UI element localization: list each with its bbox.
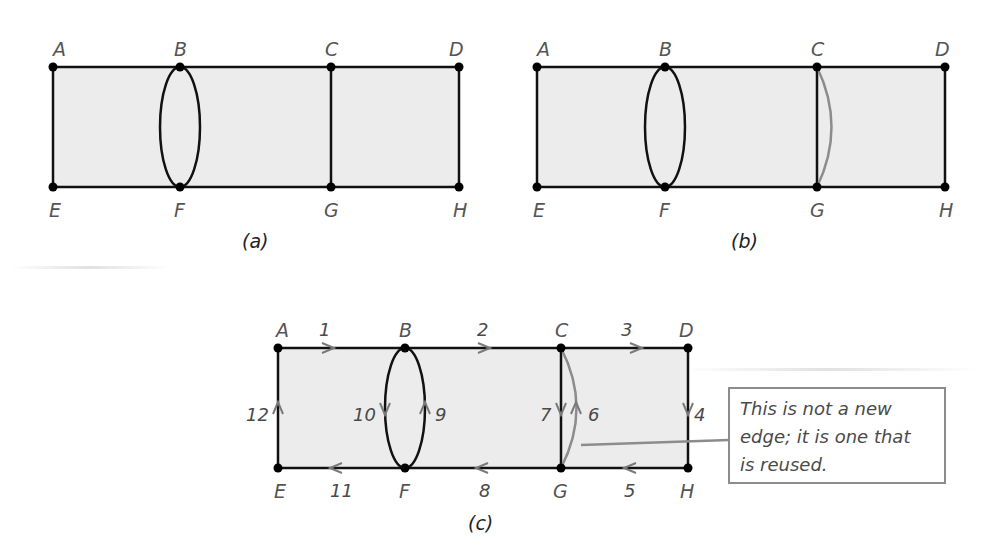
label-f: F	[174, 199, 186, 221]
label-b: B	[659, 38, 672, 60]
reused-edge-callout: This is not a new edge; it is one that i…	[728, 387, 946, 484]
label-a: A	[51, 38, 66, 60]
edge-label-8: 8	[479, 480, 490, 501]
label-c: C	[811, 38, 825, 60]
node-c	[327, 63, 336, 72]
label-e: E	[49, 199, 61, 221]
callout-line-1: This is not a new	[740, 395, 936, 423]
node-a	[49, 63, 58, 72]
edge-label-11: 11	[330, 480, 353, 501]
label-h: H	[939, 199, 953, 221]
panel-b-fill	[537, 67, 945, 187]
edge-label-10: 10	[353, 404, 376, 425]
label-e: E	[533, 199, 545, 221]
caption-b: (b)	[731, 230, 758, 252]
label-h: H	[680, 480, 694, 502]
label-d: D	[935, 38, 950, 60]
label-c: C	[325, 38, 339, 60]
edge-label-2: 2	[477, 319, 488, 340]
caption-a: (a)	[242, 230, 268, 252]
node-f	[661, 183, 670, 192]
panel-a: A B C D E F G H (a)	[49, 38, 468, 252]
edge-label-3: 3	[621, 319, 632, 340]
label-g: G	[553, 480, 568, 502]
label-b: B	[399, 319, 412, 341]
label-c: C	[555, 319, 569, 341]
edge-label-12: 12	[246, 404, 269, 425]
node-d	[941, 63, 950, 72]
node-b	[176, 63, 185, 72]
edge-label-7: 7	[540, 404, 552, 425]
node-b	[401, 344, 410, 353]
edge-label-4: 4	[694, 404, 705, 425]
label-d: D	[679, 319, 694, 341]
panel-c: A B C D E F G H 1 2 3 4 5 6 7 8 9 10 11 …	[246, 319, 729, 534]
node-h	[455, 183, 464, 192]
label-d: D	[449, 38, 464, 60]
label-g: G	[324, 199, 339, 221]
caption-c: (c)	[468, 512, 493, 534]
node-c	[813, 63, 822, 72]
node-d	[684, 344, 693, 353]
label-b: B	[174, 38, 187, 60]
node-g	[327, 183, 336, 192]
node-h	[684, 464, 693, 473]
edge-label-6: 6	[588, 404, 599, 425]
edge-label-9: 9	[435, 404, 446, 425]
panel-b: A B C D E F G H (b)	[533, 38, 954, 252]
label-h: H	[453, 199, 467, 221]
panel-c-fill	[278, 348, 688, 468]
node-h	[941, 183, 950, 192]
node-a	[533, 63, 542, 72]
node-c	[557, 344, 566, 353]
label-a: A	[274, 319, 289, 341]
node-b	[661, 63, 670, 72]
node-g	[557, 464, 566, 473]
node-f	[176, 183, 185, 192]
label-f: F	[399, 480, 411, 502]
label-e: E	[274, 480, 286, 502]
node-e	[274, 464, 283, 473]
callout-line-2: edge; it is one that	[740, 423, 936, 451]
node-f	[401, 464, 410, 473]
callout-line-3: is reused.	[740, 451, 936, 479]
edge-label-5: 5	[624, 480, 635, 501]
node-a	[274, 344, 283, 353]
panel-a-fill	[53, 67, 459, 187]
label-a: A	[535, 38, 550, 60]
edge-label-1: 1	[319, 319, 330, 340]
node-e	[49, 183, 58, 192]
node-e	[533, 183, 542, 192]
node-d	[455, 63, 464, 72]
label-f: F	[659, 199, 671, 221]
node-g	[813, 183, 822, 192]
label-g: G	[810, 199, 825, 221]
